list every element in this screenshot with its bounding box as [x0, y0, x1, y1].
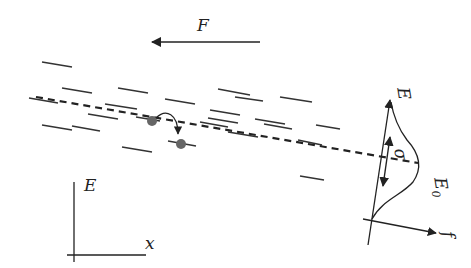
sigma-label: σ: [391, 147, 410, 161]
hopping-diagram: [0, 0, 471, 268]
energy-site: [255, 119, 285, 124]
site-start-dot: [147, 116, 157, 126]
position-axis-label: x: [145, 235, 155, 252]
energy-site: [88, 114, 118, 119]
energy-site: [165, 99, 195, 104]
energy-site: [235, 97, 263, 101]
center-energy-label: E0: [428, 176, 451, 198]
energy-site: [42, 62, 72, 67]
energy-site: [210, 110, 240, 115]
energy-axis-label-dos: E: [394, 86, 413, 101]
dos-axes: [363, 100, 436, 245]
energy-site: [62, 88, 92, 93]
energy-axis-label-left: E: [84, 177, 96, 194]
energy-site: [105, 104, 137, 109]
energy-site: [122, 147, 152, 152]
energy-site: [72, 126, 100, 131]
ex-axes: [67, 182, 146, 262]
force-label: F: [197, 17, 209, 34]
energy-site: [300, 176, 324, 180]
energy-site: [208, 118, 238, 123]
energy-site: [118, 88, 148, 93]
site-end-dot: [176, 139, 186, 149]
energy-site: [264, 124, 292, 129]
energy-sites: [29, 62, 340, 180]
energy-site: [218, 89, 250, 95]
energy-site: [42, 125, 72, 130]
hop-arrow: [156, 113, 178, 134]
energy-site: [316, 125, 340, 129]
sigma-arrow: [383, 137, 390, 186]
energy-site: [280, 97, 312, 102]
